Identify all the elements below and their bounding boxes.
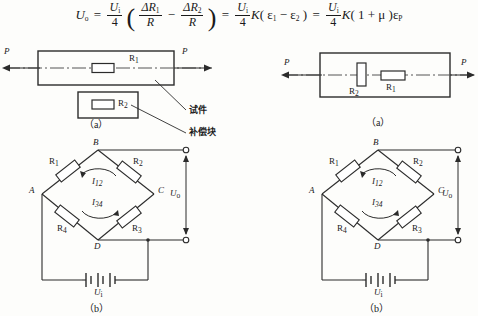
bridge-circuit-left: B A C D R1 R2 R4 R3 I12 I34 Uo Ui (20, 140, 220, 312)
paren-close: ) (208, 3, 217, 32)
bridge-output-voltage: Uo (170, 189, 180, 200)
frac-dr1-r: ΔR1 R (139, 1, 161, 28)
frac2-den: R (139, 15, 161, 29)
bridge-current-i34: I34 (92, 198, 103, 209)
frac2-num-sub: 1 (156, 6, 160, 15)
bridge-current-i12: I12 (92, 177, 103, 188)
strain-gauge-r1-axial (381, 71, 405, 80)
bridge-current-i12-right: I12 (372, 177, 383, 188)
junction-d-right-right (426, 238, 430, 242)
force-label-left-right-fig: P (284, 58, 290, 67)
minus-2: − (276, 7, 290, 22)
equals-1: = (92, 7, 103, 22)
gauge-r1-label: R1 (129, 54, 139, 65)
force-left-arrowhead (2, 65, 10, 72)
bridge-node-c: C (158, 186, 164, 195)
frac4-num: U (237, 0, 246, 14)
caption-b-right: （b） (364, 300, 389, 315)
frac1-num-sub: i (118, 6, 120, 15)
frac2-num: ΔR (141, 0, 155, 14)
gauge-r2-label: R2 (118, 99, 128, 110)
force-label-right-right-fig: P (461, 58, 467, 67)
figure-a-left: P P R1 R2 试件 补偿块 (0, 42, 240, 134)
loop-current-i34-arrowhead-right (393, 210, 399, 216)
frac-ui-4-c: Ui 4 (326, 1, 341, 28)
equals-3: = (310, 7, 321, 22)
bridge-right-drawing (300, 140, 478, 312)
frac3-num: ΔR (183, 0, 197, 14)
frac1-den: 4 (107, 15, 122, 29)
strain-gauge-r2-transverse (357, 63, 366, 86)
leader-compensation-block (131, 105, 186, 133)
caption-a-right: （a） (366, 114, 390, 129)
figure-page: Uo = Ui 4 ( ΔR1 R − ΔR2 R ) = Ui 4 K( ε1… (0, 0, 478, 316)
equation-lhs-sub: o (85, 14, 89, 23)
caption-b-left: （b） (84, 300, 109, 315)
bridge-current-i34-right: I34 (372, 198, 383, 209)
eps-p-sub: P (398, 14, 402, 23)
frac5-num-sub: i (337, 6, 339, 15)
loop-current-i12-arc-right (362, 169, 396, 176)
caption-a-left: （a） (84, 116, 108, 131)
frac3-den: R (181, 15, 203, 29)
bridge-r3-label-right: R3 (412, 224, 422, 235)
uo-arrow-head-bottom-right (455, 228, 461, 235)
output-terminal-bottom-right (455, 237, 461, 243)
bridge-r1-element (56, 160, 80, 182)
loop-current-i34-arc-right (362, 211, 396, 218)
figure-a-right-drawing (278, 42, 478, 112)
frac3-num-sub: 2 (198, 6, 202, 15)
paren-open: ( (126, 3, 135, 32)
gauge-r1-label-right: R1 (386, 83, 396, 94)
uo-arrow-head-bottom (183, 228, 189, 235)
bridge-supply-voltage-right: Ui (374, 288, 383, 299)
callout-specimen: 试件 (189, 106, 207, 115)
equation-lhs: U (75, 7, 84, 22)
loop-current-i34-arrowhead (113, 210, 119, 216)
frac5-den: 4 (326, 15, 341, 29)
bridge-r2-label: R2 (133, 157, 143, 168)
figure-a-right: P P R2 R1 (278, 42, 478, 112)
frac-dr2-r: ΔR2 R (181, 1, 203, 28)
minus-1: − (166, 7, 177, 22)
bridge-output-voltage-right: Uo (442, 189, 452, 200)
bridge-r4-label: R4 (57, 224, 67, 235)
output-terminal-bottom (183, 237, 189, 243)
bridge-r1-label-right: R1 (329, 157, 339, 168)
bridge-r2-label-right: R2 (413, 157, 423, 168)
loop-current-i12-arc (82, 169, 116, 176)
bridge-r3-label: R3 (132, 224, 142, 235)
bridge-circuit-right: B A C D R1 R2 R4 R3 I12 I34 Uo Ui (300, 140, 478, 312)
eps-group-open: ( ε (260, 7, 273, 22)
frac-ui-4-a: Ui 4 (107, 1, 122, 28)
frac5-num: U (328, 0, 337, 14)
figure-a-left-drawing (0, 42, 240, 134)
frac4-den: 4 (235, 15, 250, 29)
bridge-supply-voltage: Ui (94, 288, 103, 299)
equals-2: = (220, 7, 231, 22)
k-factor-1: K (251, 7, 260, 22)
bridge-node-b: B (93, 138, 99, 147)
mu-group: ( 1 + μ ) (350, 7, 392, 22)
bridge-node-a: A (29, 186, 35, 195)
junction-d-right (146, 238, 150, 242)
strain-gauge-r2 (92, 100, 114, 109)
frac-ui-4-b: Ui 4 (235, 1, 250, 28)
bridge-node-a-right: A (309, 186, 315, 195)
force-label-right: P (182, 47, 188, 56)
bridge-r4-label-right: R4 (337, 224, 347, 235)
frac4-num-sub: i (246, 6, 248, 15)
force-right-arrowhead-right (467, 72, 475, 79)
bridge-node-d-right: D (374, 242, 381, 251)
uo-arrow-head-top (183, 155, 189, 162)
bridge-r1-label: R1 (49, 157, 59, 168)
loop-current-i34-arc (82, 211, 116, 218)
force-left-arrowhead-right (281, 72, 289, 79)
gauge-r2-label-right: R2 (349, 87, 359, 98)
bridge-r1-element-right (336, 160, 360, 182)
frac1-num: U (109, 0, 118, 14)
uo-arrow-head-top-right (455, 155, 461, 162)
equation-main: Uo = Ui 4 ( ΔR1 R − ΔR2 R ) = Ui 4 K( ε1… (0, 2, 478, 33)
force-right-arrowhead (204, 65, 212, 72)
eps-group-close: ) (300, 7, 308, 22)
